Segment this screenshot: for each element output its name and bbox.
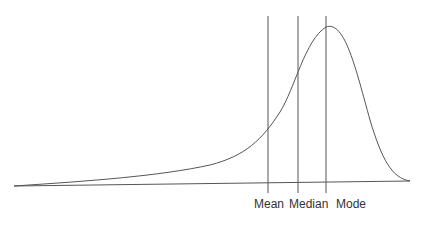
skewed-distribution-diagram — [0, 0, 423, 225]
median-label: Median — [289, 197, 328, 211]
mode-label: Mode — [336, 197, 366, 211]
mean-label: Mean — [254, 197, 284, 211]
distribution-curve — [14, 26, 410, 186]
